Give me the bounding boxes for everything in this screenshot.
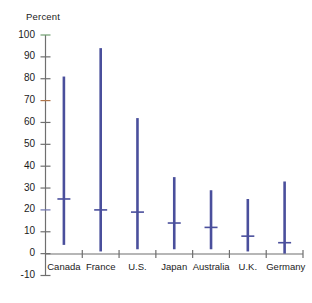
- y-axis-tick-label: 60: [9, 117, 35, 127]
- y-axis-tick-label: 20: [9, 204, 35, 214]
- range-bar: [57, 77, 70, 245]
- range-bar: [168, 177, 181, 249]
- range-bar: [205, 190, 218, 249]
- chart-plot-area: [0, 0, 312, 303]
- range-bar: [94, 48, 107, 251]
- y-axis-tick-label: 10: [9, 226, 35, 236]
- y-axis-tick-label: 80: [9, 73, 35, 83]
- y-axis-tick-label: 0: [9, 248, 35, 258]
- axis-layer: [41, 35, 304, 276]
- range-bar-chart: Percent -100102030405060708090100 Canada…: [0, 0, 312, 303]
- y-axis-tick-label: 50: [9, 139, 35, 149]
- x-axis-category-label: Australia: [193, 262, 230, 272]
- x-axis-category-label: Japan: [156, 262, 193, 272]
- range-bar: [241, 199, 254, 251]
- y-axis-tick-label: 90: [9, 51, 35, 61]
- x-axis-category-label: France: [82, 262, 119, 272]
- range-bar: [278, 181, 291, 253]
- x-axis-category-label: U.S.: [119, 262, 156, 272]
- x-axis-category-label: Germany: [266, 262, 303, 272]
- y-axis-tick-label: 100: [9, 30, 35, 40]
- range-bar: [131, 118, 144, 249]
- x-axis-category-label: Canada: [46, 262, 83, 272]
- bars-layer: [57, 48, 291, 254]
- y-axis-tick-label: 30: [9, 183, 35, 193]
- x-axis-category-label: U.K.: [229, 262, 266, 272]
- y-axis-tick-label: -10: [9, 270, 35, 280]
- y-axis-tick-label: 40: [9, 161, 35, 171]
- y-axis-tick-label: 70: [9, 95, 35, 105]
